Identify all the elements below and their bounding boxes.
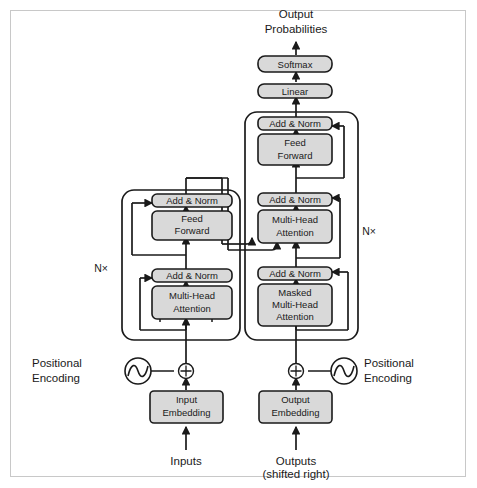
input-embedding-label-line1: Input [176,394,197,405]
outputs-label-line2: (shifted right) [262,468,329,480]
decoder-positional-encoding-node [308,358,357,384]
encoder-block-add-norm-2[interactable]: Add & Norm [152,194,232,207]
encoder-add-norm-1-label: Add & Norm [166,270,218,281]
decoder-add-norm-1-label: Add & Norm [269,268,321,279]
decoder-block-add-norm-2[interactable]: Add & Norm [258,193,332,206]
output-probabilities-label-line2: Probabilities [265,23,328,35]
decoder-positional-encoding-label-line2: Encoding [364,372,412,384]
encoder-flow-lines [132,178,277,390]
encoder-feed-forward-label-line2: Forward [175,225,210,236]
encoder-block-feed-forward[interactable]: Feed Forward [152,211,232,240]
decoder-masked-mha-label-line2: Multi-Head [272,299,318,310]
encoder-positional-encoding-label-line2: Encoding [32,372,80,384]
decoder-masked-mha-label-line1: Masked [278,287,311,298]
softmax-block[interactable]: Softmax [258,56,332,72]
decoder-feed-forward-label-line2: Forward [278,150,313,161]
input-embedding-label-line2: Embedding [162,407,210,418]
encoder-block-multi-head-attention[interactable]: Multi-Head Attention [152,286,232,319]
decoder-residual-add-node [289,364,304,379]
decoder-block-feed-forward[interactable]: Feed Forward [258,134,332,165]
output-embedding-label-line2: Embedding [271,407,319,418]
decoder-mha-label-line2: Attention [276,227,314,238]
encoder-mha-label-line2: Attention [173,303,211,314]
inputs-label: Inputs [170,455,202,467]
decoder-add-norm-2-label: Add & Norm [269,194,321,205]
output-embedding-label-line1: Output [281,394,310,405]
encoder-feed-forward-label-line1: Feed [181,213,203,224]
encoder-block-add-norm-1[interactable]: Add & Norm [152,269,232,282]
encoder-positional-encoding-node [125,358,174,384]
decoder-block-add-norm-3[interactable]: Add & Norm [258,117,332,130]
decoder-masked-mha-label-line3: Attention [276,311,314,322]
encoder-repeat-label: N× [94,262,108,274]
architecture-diagram: Add & Norm Feed Forward Add & Norm Multi… [0,0,477,488]
encoder-add-norm-2-label: Add & Norm [166,195,218,206]
decoder-block-masked-multi-head-attention[interactable]: Masked Multi-Head Attention [258,284,332,326]
softmax-label: Softmax [278,59,313,70]
encoder-mha-label-line1: Multi-Head [169,290,215,301]
linear-label: Linear [282,86,308,97]
input-embedding-block[interactable]: Input Embedding [150,391,223,423]
decoder-block-add-norm-1[interactable]: Add & Norm [258,267,332,280]
encoder-positional-encoding-label-line1: Positional [32,357,82,369]
output-probabilities-label-line1: Output [279,8,314,20]
decoder-repeat-label: N× [362,225,376,237]
linear-block[interactable]: Linear [258,84,332,98]
decoder-mha-label-line1: Multi-Head [272,214,318,225]
encoder-residual-add-node [179,364,194,379]
decoder-block-multi-head-attention[interactable]: Multi-Head Attention [258,210,332,243]
decoder-feed-forward-label-line1: Feed [284,137,306,148]
transformer-architecture-figure: Add & Norm Feed Forward Add & Norm Multi… [0,0,477,488]
outputs-label-line1: Outputs [276,455,317,467]
decoder-add-norm-3-label: Add & Norm [269,118,321,129]
output-embedding-block[interactable]: Output Embedding [259,391,332,423]
decoder-positional-encoding-label-line1: Positional [364,357,414,369]
